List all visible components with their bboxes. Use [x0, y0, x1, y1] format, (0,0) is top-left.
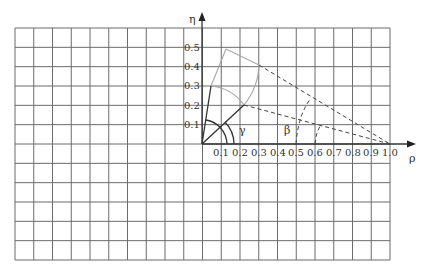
rho-axis-label: ρ — [409, 152, 415, 165]
eta-tick: 0.1 — [184, 119, 200, 130]
eta-tick: 0.2 — [184, 100, 200, 111]
axes — [199, 12, 417, 148]
solid-dark-lines — [202, 86, 244, 144]
light-top-edge — [226, 49, 259, 65]
rho-tick: 0.8 — [345, 147, 361, 158]
rho-tick: 0.2 — [232, 147, 248, 158]
dashed-arc-beta-inner — [315, 125, 321, 144]
solid-ray-steep — [202, 86, 211, 144]
light-ray-upper — [211, 49, 226, 86]
rho-tick: 0.7 — [326, 147, 342, 158]
eta-tick: 0.3 — [184, 80, 200, 91]
rho-tick-labels: 0.1 0.2 0.3 0.4 0.5 0.6 0.7 0.8 0.9 1.0 — [213, 147, 398, 158]
diagram-canvas: η ρ 0.1 0.2 0.3 0.4 0.5 0.6 0.7 0.8 0.9 … — [0, 0, 434, 273]
beta-label: β — [284, 124, 290, 137]
eta-axis-arrow-icon — [199, 12, 206, 21]
rho-tick: 0.3 — [251, 147, 267, 158]
light-arc-inner — [211, 86, 244, 105]
rho-tick: 1.0 — [382, 147, 398, 158]
rho-axis-arrow-icon — [407, 141, 416, 148]
gamma-label: γ — [239, 124, 246, 137]
rho-tick: 0.9 — [363, 147, 379, 158]
eta-tick: 0.5 — [184, 42, 200, 53]
eta-tick-labels: 0.1 0.2 0.3 0.4 0.5 — [184, 42, 200, 130]
light-arc-outer — [244, 65, 259, 105]
dashed-ray-upper — [259, 65, 390, 144]
eta-axis-label: η — [189, 13, 196, 26]
rho-tick: 0.5 — [288, 147, 304, 158]
eta-tick: 0.4 — [184, 61, 200, 72]
light-construction-lines — [211, 49, 259, 105]
rho-tick: 0.4 — [270, 147, 286, 158]
rho-tick: 0.6 — [307, 147, 323, 158]
rho-tick: 0.1 — [213, 147, 229, 158]
dashed-lines — [244, 65, 390, 144]
